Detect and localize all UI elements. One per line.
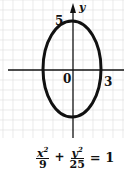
- y-denominator: 25: [70, 159, 85, 170]
- y-axis-label: y: [79, 1, 85, 14]
- fraction-x: x2 9: [36, 144, 49, 170]
- y-exponent: 2: [78, 145, 83, 154]
- x-denominator: 9: [39, 159, 47, 170]
- plus-sign: +: [54, 150, 64, 164]
- fraction-y: y2 25: [70, 144, 85, 170]
- ellipse-curve: [43, 21, 101, 117]
- equals-one: = 1: [90, 150, 114, 165]
- origin-label: 0: [63, 72, 71, 86]
- right-intercept-label: 3: [104, 75, 112, 89]
- top-intercept-label: 5: [55, 14, 63, 28]
- y-axis-arrow-icon: [70, 3, 76, 13]
- ellipse-equation: x2 9 + y2 25 = 1: [36, 144, 119, 170]
- x-exponent: 2: [44, 145, 49, 154]
